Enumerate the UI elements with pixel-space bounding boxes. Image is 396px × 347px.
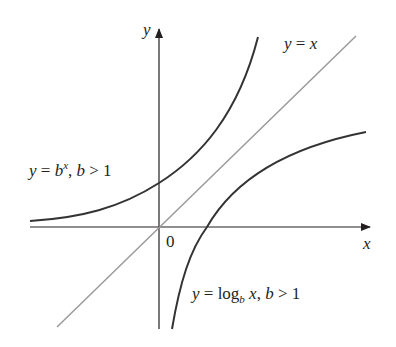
log-cond-b: b [265, 284, 274, 303]
identity-label: y = x [284, 35, 317, 52]
log-x: x [245, 284, 257, 303]
exp-y: y [29, 161, 37, 180]
log-y: y [192, 284, 200, 303]
log-eq: = log [200, 284, 240, 303]
figure: y x 0 y = x y = bx, b > 1 y = logb x, b … [0, 0, 396, 347]
log-cond: > 1 [274, 284, 301, 303]
exp-b: b [55, 161, 64, 180]
identity-x: x [310, 34, 318, 53]
origin-label: 0 [166, 233, 175, 250]
exp-cond-b: b [77, 161, 86, 180]
identity-eq: = [292, 34, 310, 53]
y-axis-label: y [143, 21, 151, 38]
exp-eq: = [37, 161, 55, 180]
log-comma: , [257, 284, 266, 303]
x-axis-label: x [363, 235, 371, 252]
identity-y: y [284, 34, 292, 53]
exp-cond: > 1 [85, 161, 112, 180]
exponential-label: y = bx, b > 1 [29, 160, 112, 179]
logarithmic-label: y = logb x, b > 1 [192, 285, 300, 305]
exponential-curve [30, 37, 258, 221]
exp-comma: , [68, 161, 77, 180]
